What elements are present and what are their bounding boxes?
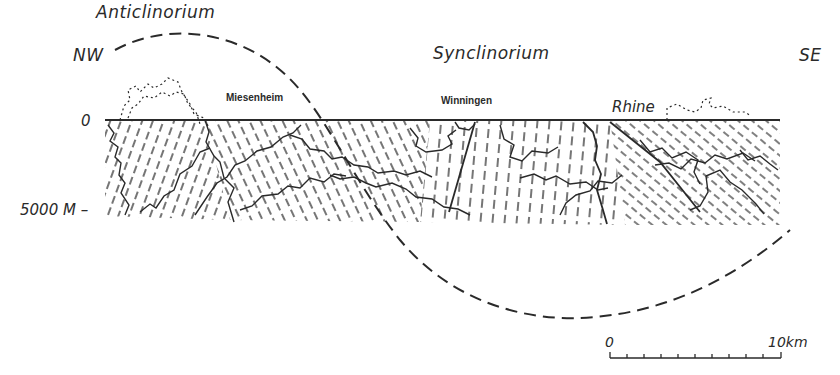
- direction-nw-label: NW: [73, 45, 104, 65]
- section-body: [105, 120, 780, 225]
- place-winningen: Winningen: [441, 95, 492, 106]
- depth-5000m-label: 5000 M –: [20, 201, 88, 219]
- cross-section-drawing: [0, 0, 840, 375]
- scale-start-label: 0: [605, 334, 614, 350]
- place-miesenheim: Miesenheim: [226, 92, 283, 103]
- depth-zero-label: 0: [81, 112, 91, 130]
- synclinorium-label: Synclinorium: [433, 43, 550, 63]
- scale-end-label: 10km: [768, 334, 808, 350]
- cross-section-figure: Anticlinorium Synclinorium NW SE Miesenh…: [0, 0, 840, 375]
- direction-se-label: SE: [799, 45, 822, 65]
- anticlinorium-label: Anticlinorium: [96, 2, 215, 22]
- place-rhine: Rhine: [612, 98, 655, 116]
- topography-outline: [120, 78, 751, 126]
- scale-bar: [610, 352, 781, 358]
